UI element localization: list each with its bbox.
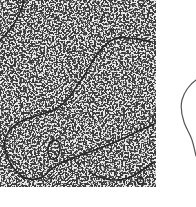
speckle-texture [0, 0, 156, 187]
micrograph-image [0, 0, 156, 187]
molecule-tracing-panel [176, 78, 196, 158]
outline-tracing [176, 78, 196, 158]
dna-micrograph-panel [0, 0, 156, 187]
